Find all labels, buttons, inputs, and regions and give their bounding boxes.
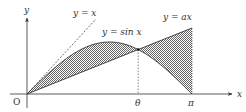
shaded-region-right <box>138 28 192 94</box>
intersection-point <box>137 48 140 51</box>
y-axis-label: y <box>23 5 30 15</box>
tick-label-pi: π <box>187 98 195 108</box>
shaded-region-left <box>27 42 138 94</box>
x-axis-label: x <box>237 89 242 99</box>
label-y-eq-ax: y = ax <box>162 12 192 22</box>
tick-label-theta: θ <box>135 98 141 108</box>
label-y-eq-x: y = x <box>72 8 96 18</box>
label-y-eq-sinx: y = sin x <box>101 27 142 37</box>
function-graph: y x O y = x y = sin x y = ax θ π <box>0 0 246 112</box>
origin-label: O <box>13 97 20 107</box>
